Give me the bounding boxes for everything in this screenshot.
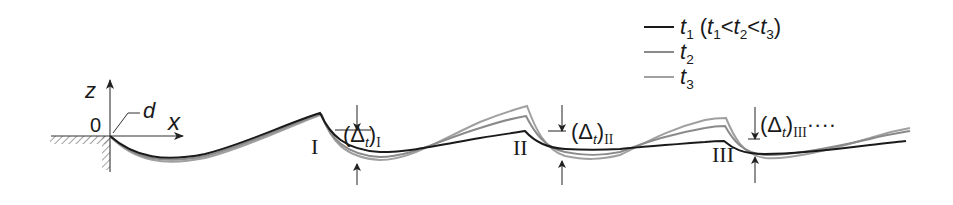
legend-swatches — [644, 27, 674, 77]
depth-label: d — [143, 100, 155, 122]
legend-item-t2: t2 — [680, 39, 694, 65]
delta-label-2: (Δt)II — [571, 121, 613, 143]
x-axis-label: x — [168, 110, 180, 134]
d-leader-line — [113, 113, 140, 133]
delta-indicator-2 — [548, 105, 566, 185]
step-label-3: III — [712, 144, 734, 166]
step-label-1: I — [311, 136, 318, 158]
delta-indicator-3 — [748, 107, 760, 183]
origin-label: 0 — [90, 115, 101, 135]
delta-label-1: (Δt)I — [343, 124, 381, 146]
legend-item-t1: t1 (t1<t2<t3) — [680, 14, 781, 40]
z-axis-label: z — [85, 80, 96, 102]
hatched-wall-icon — [50, 136, 110, 170]
legend-item-t3: t3 — [680, 64, 694, 90]
legend-note: (t1<t2<t3) — [700, 14, 781, 40]
step-label-2: II — [513, 137, 528, 159]
delta-label-3: (Δt)III···· — [760, 114, 836, 136]
diagram-canvas: z x 0 d I II III (Δt)I (Δt)II (Δt)III···… — [0, 0, 953, 205]
